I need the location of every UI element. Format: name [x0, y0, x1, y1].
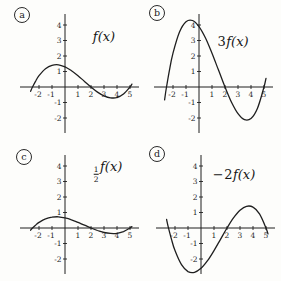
y-tick-label: -1 [188, 98, 195, 107]
y-tick-label: -2 [188, 114, 196, 123]
curve-b [165, 20, 266, 120]
x-tick-label: 1 [210, 90, 215, 99]
x-tick-label: 2 [89, 231, 94, 240]
y-tick-label: 3 [57, 177, 62, 186]
label-function-name: f(x) [226, 34, 248, 49]
panel-letter-a: a [14, 7, 30, 23]
x-tick-label: 2 [89, 90, 94, 99]
y-tick-label: -1 [54, 239, 61, 248]
panel-letter-c: c [16, 149, 32, 165]
plot-b: -2-1123454321-1-2 [141, 0, 281, 140]
x-tick-label: 5 [128, 90, 133, 99]
y-tick-label: 4 [57, 21, 62, 30]
x-tick-label: -1 [47, 90, 54, 99]
x-tick-label: 5 [128, 231, 133, 240]
x-tick-label: 3 [238, 231, 243, 240]
function-label-c: 12f(x) [94, 159, 123, 183]
x-tick-label: 3 [236, 90, 241, 99]
function-label-a: f(x) [93, 29, 115, 44]
label-function-name: f(x) [100, 159, 122, 174]
label-function-name: f(x) [233, 167, 255, 182]
y-tick-label: -1 [54, 98, 61, 107]
y-tick-label: -2 [54, 114, 62, 123]
panel-letter-d: d [149, 146, 165, 162]
y-tick-label: 1 [191, 67, 196, 76]
x-tick-label: 1 [76, 231, 81, 240]
x-tick-label: 1 [212, 231, 217, 240]
x-tick-label: 4 [249, 90, 254, 99]
y-tick-label: 2 [191, 52, 196, 61]
plot-d: -2-1123454321-1-2 [141, 141, 281, 281]
panel-c: -2-1123454321-1-2 c 12f(x) [0, 141, 140, 281]
y-tick-label: 2 [57, 52, 62, 61]
y-tick-label: 2 [57, 193, 62, 202]
y-tick-label: 3 [57, 36, 62, 45]
panel-b: -2-1123454321-1-2 b 3f(x) [141, 0, 281, 140]
panel-d: -2-1123454321-1-2 d −2f(x) [141, 141, 281, 281]
y-tick-label: 1 [57, 67, 62, 76]
panel-a: -2-1123454321-1-2 a f(x) [0, 0, 140, 140]
function-label-b: 3f(x) [217, 34, 248, 49]
x-tick-label: 1 [76, 90, 81, 99]
label-coefficient: 3 [217, 34, 226, 49]
x-tick-label: -1 [47, 231, 54, 240]
y-tick-label: -2 [190, 255, 198, 264]
y-tick-label: -2 [54, 255, 62, 264]
label-coefficient: −2 [213, 167, 233, 182]
y-tick-label: 2 [193, 193, 198, 202]
y-tick-label: 3 [193, 177, 198, 186]
y-tick-label: 1 [57, 208, 62, 217]
x-tick-label: -2 [34, 90, 42, 99]
panel-letter-b: b [149, 5, 165, 21]
y-tick-label: -1 [190, 239, 197, 248]
y-tick-label: 4 [57, 162, 62, 171]
y-tick-label: 3 [191, 36, 196, 45]
x-tick-label: -2 [34, 231, 42, 240]
x-tick-label: -2 [168, 90, 176, 99]
x-tick-label: -1 [183, 231, 190, 240]
x-tick-label: -1 [181, 90, 188, 99]
function-label-d: −2f(x) [213, 167, 255, 182]
label-fraction: 12 [94, 166, 99, 183]
y-tick-label: 4 [193, 162, 198, 171]
label-function-name: f(x) [93, 29, 115, 44]
x-tick-label: 4 [251, 231, 256, 240]
x-tick-label: 4 [115, 231, 120, 240]
figure: -2-1123454321-1-2 a f(x) -2-1123454321-1… [0, 0, 281, 281]
y-tick-label: 1 [193, 208, 198, 217]
